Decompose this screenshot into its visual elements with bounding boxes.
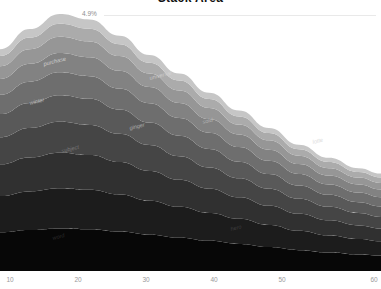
x-tick-label: 60 — [370, 276, 377, 283]
streamgraph-plot: purchaseuniversalwintergingersoldlottesu… — [0, 0, 381, 271]
x-axis: 102030405060 — [0, 271, 381, 289]
x-tick-label: 10 — [6, 276, 13, 283]
x-tick-label: 30 — [142, 276, 149, 283]
chart-container: Stack Area purchaseuniversalwinterginger… — [0, 0, 381, 289]
x-tick-label: 40 — [210, 276, 217, 283]
annotation-label: 4.9% — [82, 10, 97, 17]
x-tick-label: 50 — [278, 276, 285, 283]
series-inline-label: lotte — [312, 137, 324, 145]
x-tick-label: 20 — [74, 276, 81, 283]
annotation-guide-line — [104, 15, 376, 16]
